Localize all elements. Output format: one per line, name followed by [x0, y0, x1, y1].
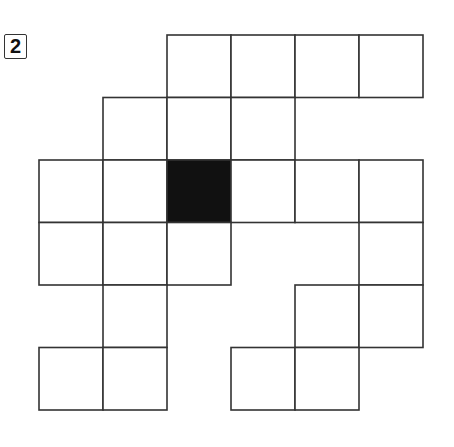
grid-cell [231, 348, 295, 411]
grid-cell [359, 285, 423, 348]
grid-cell [39, 160, 103, 223]
grid-cell [167, 223, 231, 286]
grid-cell [295, 348, 359, 411]
grid-cell [295, 285, 359, 348]
grid-cell-shaded [167, 160, 231, 223]
grid-cell [103, 98, 167, 161]
grid-cell [39, 348, 103, 411]
grid-cell [231, 160, 295, 223]
grid-cell [231, 98, 295, 161]
grid-cell [295, 35, 359, 98]
grid-cell [295, 160, 359, 223]
grid-cell [39, 223, 103, 286]
grid-cell [359, 160, 423, 223]
grid-cell [359, 223, 423, 286]
grid-cell [103, 160, 167, 223]
grid-cell [359, 35, 423, 98]
grid-diagram [0, 0, 454, 447]
grid-cell [167, 35, 231, 98]
grid-cell [167, 98, 231, 161]
grid-cell [103, 223, 167, 286]
grid-cell [103, 348, 167, 411]
grid-cell [231, 35, 295, 98]
grid-cell [103, 285, 167, 348]
